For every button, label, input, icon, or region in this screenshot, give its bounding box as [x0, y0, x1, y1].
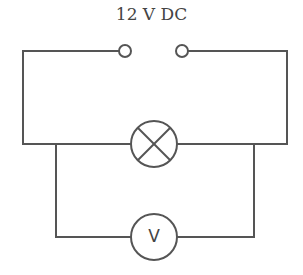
supply-terminal-right	[176, 45, 188, 57]
supply-terminal-left	[119, 45, 131, 57]
lamp-icon	[131, 121, 177, 167]
voltmeter-label: V	[134, 226, 174, 246]
circuit-diagram: 12 V DC V	[0, 0, 303, 275]
